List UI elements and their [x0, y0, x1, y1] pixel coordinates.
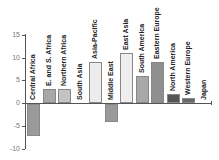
y-tick [22, 58, 25, 59]
y-tick [22, 103, 25, 104]
category-label: Northern Africa [60, 35, 68, 86]
category-label: Asia-Pacific [91, 19, 99, 59]
bar [27, 104, 40, 136]
y-axis-line [25, 34, 26, 149]
x-axis-end-tick [211, 101, 212, 105]
y-tick [22, 149, 25, 150]
bar [120, 53, 133, 103]
bar-chart: 151050-5-10 Central AfricaE. and S. Afri… [0, 0, 219, 160]
bar [89, 62, 102, 103]
category-label: South America [138, 24, 146, 73]
category-label: Eastern Europe [153, 7, 161, 59]
bar [105, 104, 118, 122]
y-tick-label: -10 [4, 145, 20, 153]
category-label: Western Europe [184, 41, 192, 95]
bar [151, 62, 164, 103]
category-label: East Asia [122, 19, 130, 50]
bar [136, 76, 149, 103]
category-label: Japan [200, 80, 208, 100]
category-label: North America [169, 43, 177, 91]
y-tick [22, 35, 25, 36]
y-tick-label: 5 [4, 76, 20, 84]
bar [43, 89, 56, 103]
category-label: South Asia [76, 64, 84, 100]
bar [182, 98, 195, 103]
category-label: E. and S. Africa [45, 35, 53, 86]
bar [167, 94, 180, 103]
zero-baseline [25, 103, 212, 104]
y-tick-label: -5 [4, 122, 20, 130]
y-tick-label: 0 [4, 99, 20, 107]
bar [58, 89, 71, 103]
category-label: Middle East [107, 61, 115, 100]
y-tick [22, 126, 25, 127]
category-label: Central Africa [29, 54, 37, 100]
y-tick-label: 10 [4, 54, 20, 62]
y-tick [22, 80, 25, 81]
y-tick-label: 15 [4, 31, 20, 39]
